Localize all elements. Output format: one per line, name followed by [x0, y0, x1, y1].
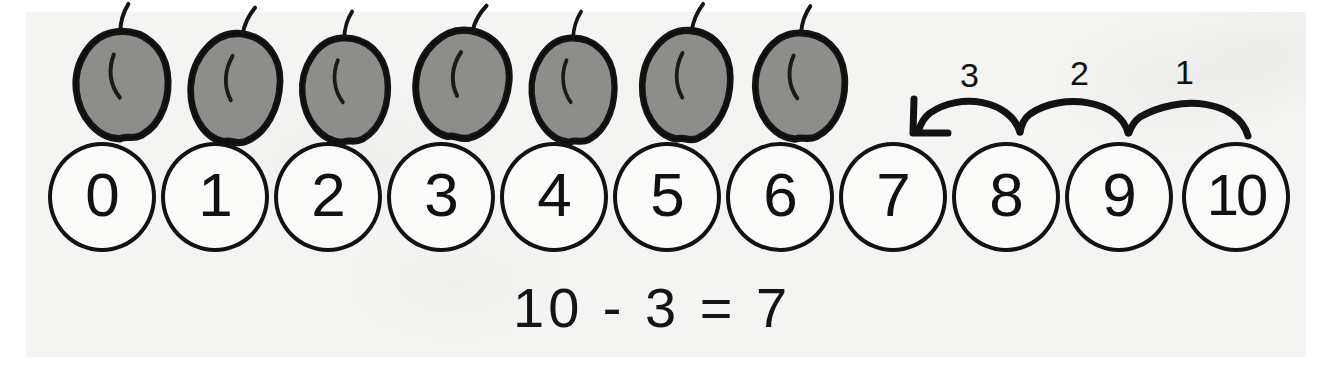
hop-arc-3 — [919, 101, 1020, 132]
hop-label-1: 1 — [1175, 55, 1194, 89]
number-circle-4-label: 4 — [537, 164, 570, 226]
plum-5 — [529, 11, 617, 144]
equation-text: 10 - 3 = 7 — [513, 280, 791, 336]
plum-7 — [754, 6, 846, 140]
number-circle-1[interactable]: 1 — [161, 142, 269, 252]
number-circle-2[interactable]: 2 — [274, 142, 382, 252]
plum-1 — [70, 2, 171, 142]
hop-label-3: 3 — [960, 58, 979, 92]
number-circle-6-label: 6 — [763, 164, 796, 226]
hop-arc-1 — [1129, 103, 1248, 136]
number-circle-5-label: 5 — [650, 164, 683, 226]
hop-label-2: 2 — [1070, 56, 1089, 90]
worksheet-canvas: 3 2 1 0 1 2 3 4 5 6 7 8 9 10 10 - 3 = 7 — [0, 0, 1342, 365]
number-circle-10[interactable]: 10 — [1182, 142, 1290, 252]
number-circle-7-label: 7 — [876, 164, 909, 226]
number-circle-6[interactable]: 6 — [726, 142, 834, 252]
plum-3 — [298, 10, 391, 144]
number-circle-2-label: 2 — [311, 164, 344, 226]
number-circle-3[interactable]: 3 — [387, 142, 495, 252]
plum-2 — [185, 2, 287, 147]
number-circle-10-label: 10 — [1207, 166, 1266, 224]
hop-arc-2 — [1020, 102, 1128, 133]
number-circle-8[interactable]: 8 — [952, 142, 1060, 252]
number-circle-4[interactable]: 4 — [500, 142, 608, 252]
plum-6 — [639, 0, 736, 142]
number-circle-0-label: 0 — [85, 164, 118, 226]
number-circle-3-label: 3 — [424, 164, 457, 226]
number-circle-9[interactable]: 9 — [1065, 142, 1173, 252]
number-circle-5[interactable]: 5 — [613, 142, 721, 252]
number-circle-0[interactable]: 0 — [48, 142, 156, 252]
plum-4 — [408, 0, 520, 145]
number-circle-7[interactable]: 7 — [839, 142, 947, 252]
number-circle-9-label: 9 — [1102, 164, 1135, 226]
number-circle-1-label: 1 — [198, 164, 231, 226]
number-circle-8-label: 8 — [989, 164, 1022, 226]
